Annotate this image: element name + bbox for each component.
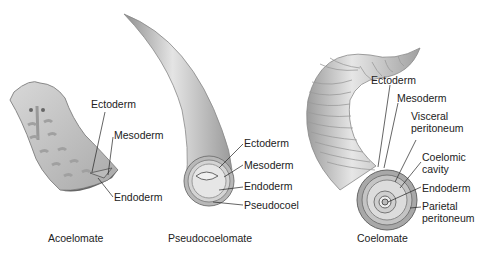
label-peritoneum: peritoneum: [411, 123, 464, 134]
label-endoderm: Endoderm: [422, 183, 470, 194]
label-mesoderm: Mesoderm: [114, 130, 164, 141]
label-ectoderm: Ectoderm: [244, 138, 289, 149]
label-peritoneum-2: peritoneum: [422, 213, 475, 224]
label-mesoderm: Mesoderm: [244, 160, 294, 171]
label-endoderm: Endoderm: [244, 181, 292, 192]
label-cavity: cavity: [422, 164, 449, 175]
caption-acoelomate: Acoelomate: [48, 232, 103, 244]
body-plan-illustrations: [0, 0, 481, 254]
label-coelomic: Coelomic: [422, 152, 466, 163]
caption-coelomate: Coelomate: [357, 232, 408, 244]
caption-pseudocoelomate: Pseudocoelomate: [168, 232, 252, 244]
label-ectoderm: Ectoderm: [371, 75, 416, 86]
label-pseudocoel: Pseudocoel: [244, 200, 299, 211]
label-visceral: Visceral: [411, 111, 448, 122]
label-mesoderm: Mesoderm: [397, 93, 447, 104]
label-endoderm: Endoderm: [114, 192, 162, 203]
label-parietal: Parietal: [422, 201, 458, 212]
pseudocoelomate-roundworm: [124, 14, 234, 206]
label-ectoderm: Ectoderm: [91, 99, 136, 110]
